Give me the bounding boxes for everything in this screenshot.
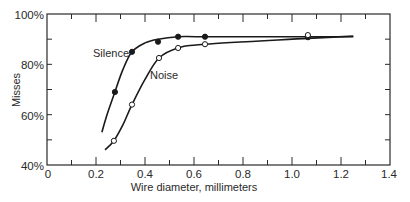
x-tick-label-1.2: 1.2	[333, 168, 349, 180]
data-point-silence	[202, 34, 207, 39]
x-tick-label-0.6: 0.6	[186, 168, 202, 180]
x-tick-label-0.2: 0.2	[88, 168, 104, 180]
data-point-noise	[305, 33, 310, 38]
data-point-noise	[156, 55, 161, 60]
series-line-silence	[102, 36, 353, 132]
y-tick-label-60: 60%	[21, 110, 44, 122]
data-point-noise	[111, 138, 116, 143]
series-label-silence: Silence	[93, 47, 129, 59]
data-point-silence	[155, 39, 160, 44]
data-point-silence	[112, 89, 117, 94]
y-tick-label-100: 100%	[15, 9, 44, 21]
series-line-noise	[105, 36, 353, 150]
data-point-noise	[129, 102, 134, 107]
x-tick-label-0: 0	[45, 168, 51, 180]
x-tick-label-1.0: 1.0	[284, 168, 300, 180]
x-tick-label-0.8: 0.8	[235, 168, 251, 180]
data-point-silence	[176, 34, 181, 39]
x-tick-label-1.4: 1.4	[381, 168, 398, 180]
line-chart: 100% 80% 60% 40% 0 0.2 0.4 0.6 0.8 1.0 1…	[0, 0, 410, 202]
series-label-noise: Noise	[150, 69, 178, 81]
data-point-noise	[176, 45, 181, 50]
chart-container: 100% 80% 60% 40% 0 0.2 0.4 0.6 0.8 1.0 1…	[0, 0, 410, 202]
x-tick-label-0.4: 0.4	[137, 168, 154, 180]
data-point-noise	[202, 42, 207, 47]
data-point-silence	[129, 49, 134, 54]
y-tick-label-80: 80%	[21, 59, 44, 71]
y-tick-label-40: 40%	[21, 160, 44, 172]
y-axis-title: Misses	[10, 72, 22, 107]
x-axis-title: Wire diameter, millimeters	[131, 181, 258, 193]
